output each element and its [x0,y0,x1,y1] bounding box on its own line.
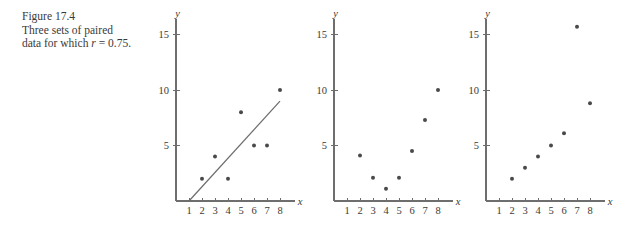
scatter-plot-3-svg: 5101512345678yx [452,0,612,235]
x-tick-label-1-7: 7 [264,205,269,216]
data-point [423,118,427,122]
y-axis-label-1: y [174,8,180,19]
data-point [562,131,566,135]
data-point [239,110,243,114]
x-tick-label-3-2: 2 [509,205,514,216]
x-tick-label-3-8: 8 [587,205,592,216]
x-tick-label-3-3: 3 [522,205,527,216]
data-point [200,177,204,181]
y-tick-label-2-10: 10 [317,85,328,96]
x-tick-label-2-3: 3 [370,205,375,216]
data-point [397,176,401,180]
caption-line-3: data for which r = 0.75. [22,37,157,51]
y-tick-label-1-15: 15 [159,29,170,40]
x-tick-label-1-6: 6 [251,205,256,216]
x-tick-label-3-1: 1 [496,205,501,216]
y-tick-label-3-10: 10 [469,85,480,96]
y-axis-label-3: y [484,8,490,19]
x-tick-label-3-5: 5 [548,205,553,216]
data-point [358,153,362,157]
y-tick-label-1-10: 10 [159,85,170,96]
x-tick-label-3-7: 7 [574,205,579,216]
data-point [436,88,440,92]
y-tick-label-1-5: 5 [164,140,169,151]
x-tick-label-2-5: 5 [396,205,401,216]
x-tick-label-2-7: 7 [422,205,427,216]
y-tick-label-3-15: 15 [469,29,480,40]
caption-figure-number: Figure 17.4 [22,10,157,24]
y-tick-label-3-5: 5 [474,140,479,151]
scatter-plot-2-svg: 5101512345678yx [300,0,460,235]
data-point [549,144,553,148]
caption-line-3-prefix: data for which [22,37,91,49]
data-point [523,166,527,170]
caption-line-2: Three sets of paired [22,24,157,38]
x-tick-label-3-6: 6 [561,205,566,216]
plot-2-points [358,88,440,191]
x-tick-label-2-8: 8 [435,205,440,216]
x-tick-label-1-5: 5 [238,205,243,216]
data-point [384,187,388,191]
data-point [536,155,540,159]
plot-3-points [510,25,592,181]
figure-container: Figure 17.4 Three sets of paired data fo… [0,0,619,235]
data-point [213,155,217,159]
x-tick-label-1-1: 1 [186,205,191,216]
x-tick-label-1-2: 2 [199,205,204,216]
x-tick-label-1-4: 4 [225,205,231,216]
x-tick-label-2-1: 1 [344,205,349,216]
data-point [278,88,282,92]
scatter-plot-2: 5101512345678yx [300,0,460,235]
x-tick-label-2-4: 4 [383,205,389,216]
y-tick-label-2-15: 15 [317,29,328,40]
y-axis-label-2: y [332,8,338,19]
data-point [410,149,414,153]
plot-2-axes: 5101512345678yx [317,8,461,216]
data-point [371,176,375,180]
x-axis-label-3: x [607,196,613,207]
y-tick-label-2-5: 5 [322,140,327,151]
x-tick-label-2-6: 6 [409,205,414,216]
plot-1-axes: 5101512345678yx [159,8,303,216]
data-point [226,177,230,181]
data-point [252,144,256,148]
data-point [510,177,514,181]
regression-line-1 [189,101,280,201]
x-tick-label-1-3: 3 [212,205,217,216]
scatter-plot-3: 5101512345678yx [452,0,612,235]
x-tick-label-1-8: 8 [277,205,282,216]
figure-caption: Figure 17.4 Three sets of paired data fo… [22,10,157,51]
plot-3-axes: 5101512345678yx [469,8,613,216]
data-point [265,144,269,148]
plot-1-points [189,88,282,201]
data-point [575,25,579,29]
scatter-plot-1-svg: 5101512345678yx [142,0,302,235]
scatter-plot-1: 5101512345678yx [142,0,302,235]
data-point [588,101,592,105]
caption-line-3-suffix: = 0.75. [96,37,131,49]
x-tick-label-2-2: 2 [357,205,362,216]
x-tick-label-3-4: 4 [535,205,541,216]
